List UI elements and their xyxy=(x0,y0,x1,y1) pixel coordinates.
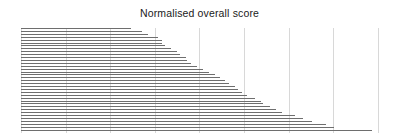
bar xyxy=(21,95,247,96)
bar xyxy=(21,118,303,119)
bar-row xyxy=(0,28,399,29)
bar-row xyxy=(0,66,399,67)
bar xyxy=(21,63,191,64)
bar xyxy=(21,101,261,102)
bar-row xyxy=(0,89,399,90)
bar-row xyxy=(0,48,399,49)
bar-row xyxy=(0,43,399,44)
bar xyxy=(21,98,255,99)
bar xyxy=(21,115,295,116)
bar-row xyxy=(0,86,399,87)
bar-row xyxy=(0,63,399,64)
bar-row xyxy=(0,118,399,119)
bar xyxy=(21,45,165,46)
bar xyxy=(21,69,203,70)
bar-row xyxy=(0,98,399,99)
bar-row xyxy=(0,37,399,38)
bar-row xyxy=(0,112,399,113)
bar xyxy=(21,130,372,131)
bar-row xyxy=(0,45,399,46)
bar xyxy=(21,43,162,44)
bar xyxy=(21,48,171,49)
bar-row xyxy=(0,31,399,32)
bar xyxy=(21,89,238,90)
bar-row xyxy=(0,103,399,104)
chart-container: Normalised overall score xyxy=(0,0,399,138)
plot-area xyxy=(0,0,399,138)
bar-row xyxy=(0,106,399,107)
bar xyxy=(21,77,220,78)
bar-row xyxy=(0,92,399,93)
bar xyxy=(21,109,276,110)
bar-row xyxy=(0,130,399,131)
bar xyxy=(21,66,197,67)
bar xyxy=(21,60,187,61)
bar-row xyxy=(0,60,399,61)
bar-row xyxy=(0,109,399,110)
bar xyxy=(21,57,186,58)
bar-row xyxy=(0,40,399,41)
bar xyxy=(21,37,158,38)
bar xyxy=(21,51,177,52)
bar xyxy=(21,124,326,125)
bar-row xyxy=(0,115,399,116)
bar-row xyxy=(0,127,399,128)
bar-row xyxy=(0,77,399,78)
bar-row xyxy=(0,101,399,102)
bar xyxy=(21,28,131,29)
bar-row xyxy=(0,95,399,96)
bar-row xyxy=(0,51,399,52)
bar xyxy=(21,106,270,107)
bar xyxy=(21,127,334,128)
bar-row xyxy=(0,124,399,125)
bar-row xyxy=(0,121,399,122)
bar xyxy=(21,34,148,35)
bar xyxy=(21,40,162,41)
bar xyxy=(21,112,282,113)
bar xyxy=(21,74,215,75)
bar xyxy=(21,103,263,104)
bar-row xyxy=(0,72,399,73)
bar-row xyxy=(0,74,399,75)
bar xyxy=(21,54,180,55)
bar xyxy=(21,83,229,84)
bar xyxy=(21,31,142,32)
bar xyxy=(21,86,235,87)
bar xyxy=(21,72,209,73)
bar xyxy=(21,121,312,122)
bar-row xyxy=(0,34,399,35)
bar-row xyxy=(0,57,399,58)
bar-row xyxy=(0,54,399,55)
bar-row xyxy=(0,69,399,70)
bar xyxy=(21,80,225,81)
bar-row xyxy=(0,83,399,84)
bar-row xyxy=(0,80,399,81)
bar xyxy=(21,92,242,93)
